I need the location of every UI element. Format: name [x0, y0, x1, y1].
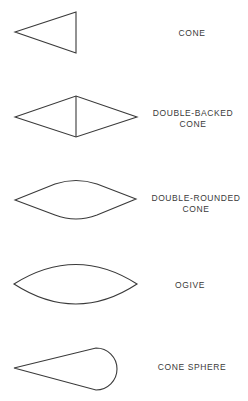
ogive-label: OGIVE — [175, 280, 205, 291]
cone-sphere-label: CONE SPHERE — [158, 362, 226, 373]
ogive-shape — [14, 265, 137, 305]
ogive-label-line-1: OGIVE — [175, 280, 205, 291]
double-backed-cone-shape — [15, 96, 137, 137]
double-rounded-cone-shape — [15, 181, 136, 220]
cone-shape — [15, 12, 76, 53]
cone-sphere-label-line-1: CONE SPHERE — [158, 362, 226, 373]
double-backed-cone-label: DOUBLE-BACKED CONE — [153, 108, 234, 130]
cone-label-line-1: CONE — [179, 28, 206, 39]
cone-label: CONE — [179, 28, 206, 39]
double-rounded-cone-label-line-2: CONE — [151, 204, 240, 215]
double-rounded-cone-label: DOUBLE-ROUNDED CONE — [151, 193, 240, 215]
cone-sphere-shape — [14, 348, 117, 390]
double-backed-cone-label-line-1: DOUBLE-BACKED — [153, 108, 234, 119]
double-rounded-cone-label-line-1: DOUBLE-ROUNDED — [151, 193, 240, 204]
double-backed-cone-label-line-2: CONE — [153, 119, 234, 130]
